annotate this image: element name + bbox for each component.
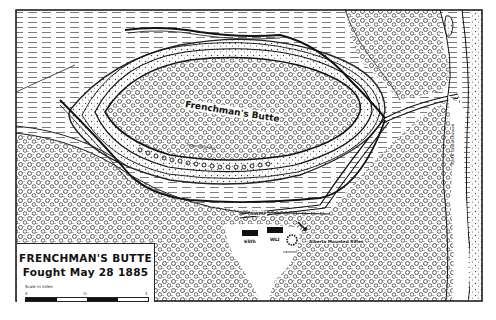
map-title-box: FRENCHMAN'S BUTTE Fought May 28 1885 Sca…: [17, 243, 155, 302]
map-title: FRENCHMAN'S BUTTE: [17, 252, 154, 264]
scale-bar: [25, 297, 149, 302]
nwmp-label: NWMP: [250, 211, 267, 216]
unit-65th-marker: [242, 230, 258, 236]
river-island: [445, 16, 453, 37]
scale-tick-1: 1: [145, 291, 148, 296]
scale-caption: Scale in miles: [25, 284, 53, 289]
cannon-marker: [287, 235, 297, 245]
river-label: North Saskatchewan: [450, 124, 455, 165]
scale-tick-half: ½: [83, 291, 87, 296]
unit-wli-label: WLI: [270, 237, 280, 242]
cannon-label: cannon: [283, 249, 297, 254]
map-subtitle: Fought May 28 1885: [17, 266, 154, 278]
alberta-label: Alberta Mounted Rifles: [309, 239, 363, 244]
unit-65th-label: 65th: [244, 239, 256, 244]
scale-tick-0: 0: [25, 291, 28, 296]
unit-wli-marker: [267, 227, 283, 233]
